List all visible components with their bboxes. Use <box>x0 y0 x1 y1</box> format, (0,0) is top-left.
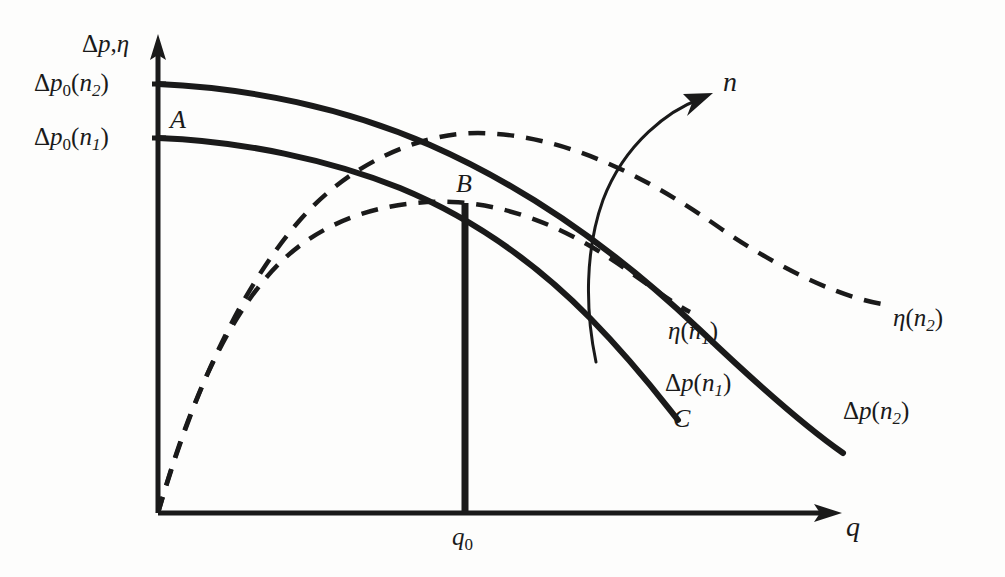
point-label-b: B <box>456 171 472 197</box>
y-tick-label-dp0-n1: Δp0(n1) <box>34 124 109 153</box>
curve-label-dp-n2: Δp(n2) <box>843 398 909 427</box>
characteristic-curve-figure <box>0 0 1005 577</box>
speed-arrow-label: n <box>723 68 737 96</box>
x-axis-label: q <box>846 513 860 541</box>
y-tick-label-dp0-n2: Δp0(n2) <box>34 70 109 99</box>
x-tick-label-q0: q0 <box>452 524 473 553</box>
diagram-page: Δp,η Δp0(n2) Δp0(n1) A B C n η(n1) η(n2)… <box>0 0 1005 577</box>
curve-eta-n1 <box>158 202 690 513</box>
curve-label-eta-n1: η(n1) <box>668 318 718 347</box>
curve-dp-n1 <box>158 138 678 420</box>
point-label-a: A <box>170 107 186 133</box>
y-axis-label: Δp,η <box>82 31 129 56</box>
axes-group <box>150 34 842 522</box>
curve-label-dp-n1: Δp(n1) <box>665 370 731 399</box>
point-label-c: C <box>673 406 690 432</box>
curve-label-eta-n2: η(n2) <box>893 305 943 334</box>
